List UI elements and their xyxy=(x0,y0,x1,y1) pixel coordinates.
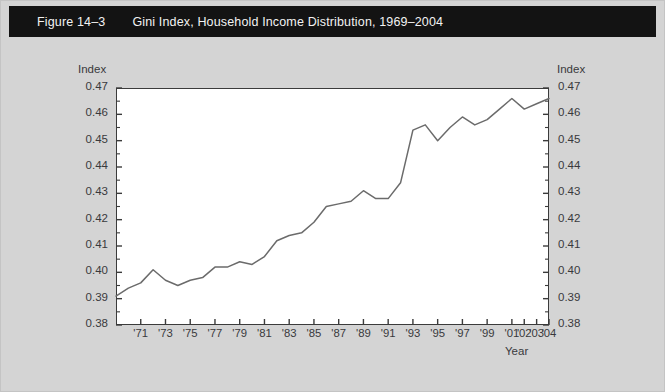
y-tick-label-left: 0.38 xyxy=(74,317,108,329)
y-tick-label-right: 0.41 xyxy=(558,238,592,250)
chart-area: Index Index Year 0.470.460.450.440.430.4… xyxy=(0,37,665,392)
y-tick-label-right: 0.40 xyxy=(558,264,592,276)
y-tick-label-right: 0.43 xyxy=(558,185,592,197)
x-tick-label: '99 xyxy=(475,327,499,339)
y-tick-label-left: 0.47 xyxy=(74,80,108,92)
x-tick-label: '81 xyxy=(252,327,276,339)
x-tick-label: '95 xyxy=(426,327,450,339)
y-tick-label-right: 0.46 xyxy=(558,106,592,118)
x-tick-label: '87 xyxy=(327,327,351,339)
x-tick-label: '83 xyxy=(277,327,301,339)
x-tick-label: '97 xyxy=(450,327,474,339)
x-tick-label: '91 xyxy=(376,327,400,339)
y-tick-label-left: 0.41 xyxy=(74,238,108,250)
figure-number: Figure 14–3 xyxy=(37,15,105,29)
x-axis-title: Year xyxy=(505,345,528,357)
y-tick-label-left: 0.39 xyxy=(74,291,108,303)
figure-caption: Gini Index, Household Income Distributio… xyxy=(132,15,443,29)
y-tick-label-right: 0.42 xyxy=(558,212,592,224)
left-axis-title: Index xyxy=(78,63,106,75)
y-tick-label-left: 0.44 xyxy=(74,159,108,171)
figure-title-bar: Figure 14–3 Gini Index, Household Income… xyxy=(9,6,656,37)
y-tick-label-right: 0.47 xyxy=(558,80,592,92)
x-tick-label: '71 xyxy=(129,327,153,339)
right-axis-title: Index xyxy=(557,63,585,75)
x-tick-label: '93 xyxy=(401,327,425,339)
plot-area xyxy=(116,88,549,325)
y-tick-label-left: 0.43 xyxy=(74,185,108,197)
x-tick-label: '85 xyxy=(302,327,326,339)
y-tick-label-right: 0.44 xyxy=(558,159,592,171)
y-tick-label-left: 0.40 xyxy=(74,264,108,276)
y-tick-label-left: 0.46 xyxy=(74,106,108,118)
x-tick-label: '79 xyxy=(228,327,252,339)
y-tick-label-left: 0.45 xyxy=(74,133,108,145)
y-tick-label-right: 0.45 xyxy=(558,133,592,145)
x-tick-label: '75 xyxy=(178,327,202,339)
y-tick-label-right: 0.38 xyxy=(558,317,592,329)
y-tick-label-left: 0.42 xyxy=(74,212,108,224)
x-tick-label: '77 xyxy=(203,327,227,339)
x-tick-label: '04 xyxy=(537,327,561,339)
y-tick-label-right: 0.39 xyxy=(558,291,592,303)
figure-container: Figure 14–3 Gini Index, Household Income… xyxy=(0,0,665,392)
x-tick-label: '89 xyxy=(351,327,375,339)
x-tick-label: '73 xyxy=(153,327,177,339)
